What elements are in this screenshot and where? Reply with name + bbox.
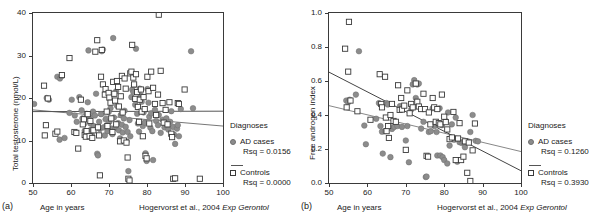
x-tick <box>521 183 522 187</box>
x-axis-title-a: Age in years <box>40 203 84 212</box>
x-tick-label: 90 <box>478 189 487 197</box>
x-tick-label: 50 <box>29 189 38 197</box>
legend-label-ad-cases: AD cases <box>240 138 274 146</box>
legend-a: Diagnoses AD cases Rsq = 0.0156 Controls… <box>230 122 291 193</box>
x-tick <box>147 183 148 187</box>
plot-area-a <box>33 13 223 183</box>
open-square-icon <box>528 170 534 176</box>
y-tick-label: 40 <box>17 9 26 17</box>
y-tick <box>29 13 33 14</box>
filled-circle-icon <box>230 139 236 145</box>
panel-label-b: (b) <box>301 201 312 211</box>
panel-label-a: (a) <box>2 201 13 211</box>
legend-rsq-controls: Rsq = 0.3930 <box>541 179 589 187</box>
x-tick <box>109 183 110 187</box>
x-tick <box>33 183 34 187</box>
citation-journal: Exp Gerontol <box>222 203 269 212</box>
x-tick <box>483 183 484 187</box>
legend-label-ad-cases: AD cases <box>538 138 572 146</box>
x-tick-label: 50 <box>325 189 334 197</box>
figure-citation-a: Hogervorst et al., 2004 Exp Gerontol <box>139 203 269 212</box>
figure-two-scatter-panels: 5060708090100010203040 Total testosteron… <box>0 0 598 220</box>
plot-frame-a: 5060708090100010203040 <box>32 12 224 184</box>
x-tick <box>329 183 330 187</box>
x-tick-label: 100 <box>216 189 229 197</box>
x-tick <box>367 183 368 187</box>
citation-text: Hogervorst et al., 2004 <box>139 203 222 212</box>
y-tick-label: 30 <box>17 52 26 60</box>
legend-rsq-ad-cases: Rsq = 0.0156 <box>243 148 291 156</box>
x-tick-label: 80 <box>440 189 449 197</box>
line-icon <box>231 165 243 166</box>
citation-journal: Exp Gerontol <box>520 203 567 212</box>
x-tick <box>71 183 72 187</box>
y-tick <box>29 183 33 184</box>
legend-row-ad-cases: AD cases <box>230 137 291 147</box>
y-tick-label: 0.6 <box>311 77 322 85</box>
x-tick <box>406 183 407 187</box>
panel-a: 5060708090100010203040 Total testosteron… <box>0 0 299 220</box>
plot-area-b <box>329 13 521 183</box>
x-tick-label: 70 <box>401 189 410 197</box>
legend-label-controls: Controls <box>538 169 568 177</box>
y-tick <box>325 183 329 184</box>
x-axis-title-b: Age in years <box>337 203 381 212</box>
citation-text: Hogervorst et al., 2004 <box>437 203 520 212</box>
y-tick-label: 0 <box>22 179 26 187</box>
y-tick-label: 0.0 <box>311 179 322 187</box>
legend-label-controls: Controls <box>240 169 270 177</box>
y-tick <box>29 141 33 142</box>
figure-citation-b: Hogervorst et al., 2004 Exp Gerontol <box>437 203 567 212</box>
legend-row-ad-cases: AD cases <box>528 137 589 147</box>
y-tick <box>325 47 329 48</box>
filled-circle-icon <box>528 139 534 145</box>
legend-row-controls: Controls <box>528 168 589 178</box>
x-tick-label: 90 <box>181 189 190 197</box>
legend-title: Diagnoses <box>528 122 589 130</box>
y-tick-label: 1.0 <box>311 9 322 17</box>
y-tick <box>29 56 33 57</box>
legend-rsq-controls: Rsq = 0.0000 <box>243 179 291 187</box>
y-axis-title-b: Free androgen index <box>308 86 317 160</box>
y-axis-title-a: Total testosterone (nmol/L) <box>11 76 20 171</box>
y-tick <box>325 115 329 116</box>
y-tick-label: 0.8 <box>311 43 322 51</box>
open-square-icon <box>230 170 236 176</box>
panel-b: 50607080901000.00.20.40.60.81.0 Free and… <box>299 0 598 220</box>
plot-frame-b: 50607080901000.00.20.40.60.81.0 <box>328 12 522 184</box>
x-tick-label: 60 <box>363 189 372 197</box>
legend-row-controls: Controls <box>230 168 291 178</box>
x-tick-label: 60 <box>67 189 76 197</box>
y-tick <box>29 98 33 99</box>
y-tick <box>325 13 329 14</box>
x-tick-label: 70 <box>105 189 114 197</box>
legend-rsq-ad-cases: Rsq = 0.1260 <box>541 148 589 156</box>
y-tick <box>325 81 329 82</box>
y-tick <box>325 149 329 150</box>
x-tick-label: 80 <box>143 189 152 197</box>
x-tick <box>223 183 224 187</box>
legend-b: Diagnoses AD cases Rsq = 0.1260 Controls… <box>528 122 589 193</box>
x-tick <box>185 183 186 187</box>
x-tick <box>444 183 445 187</box>
legend-title: Diagnoses <box>230 122 291 130</box>
line-icon <box>529 165 541 166</box>
x-tick-label: 100 <box>514 189 527 197</box>
